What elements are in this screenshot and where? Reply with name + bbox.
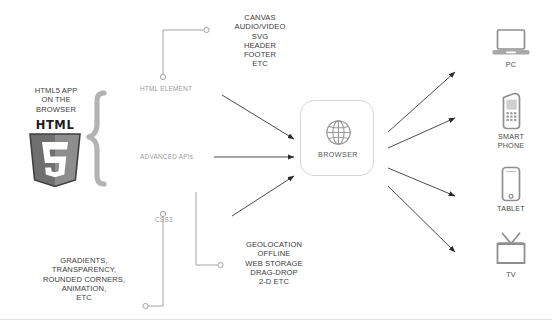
arrow-browser-to-tablet [388, 168, 455, 196]
callout-api-features: GEOLOCATION OFFLINE WEB STORAGE DRAG-DRO… [224, 240, 324, 286]
browser-node-content: BROWSER [301, 101, 375, 177]
branch-label-html-element: HTML ELEMENT [140, 85, 210, 93]
device-pc[interactable]: PC [480, 28, 542, 70]
branch-label-css3: CSS3 [155, 216, 205, 224]
html5-logo-wordmark: HTML [26, 118, 84, 132]
device-tv-label: TV [480, 271, 542, 280]
device-tv[interactable]: TV [480, 232, 542, 280]
leader-html-element [160, 27, 209, 79]
laptop-icon [491, 28, 531, 58]
device-tablet[interactable]: TABLET [480, 166, 542, 214]
arrow-css3-to-browser [232, 176, 294, 216]
tablet-icon [498, 166, 524, 202]
device-smartphone-label: SMART PHONE [480, 133, 542, 150]
tv-icon [492, 232, 530, 268]
globe-icon [325, 119, 352, 146]
arrow-browser-to-smartphone [388, 118, 455, 148]
callout-css3-features: GRADIENTS, TRANSPARENCY, ROUNDED CORNERS… [22, 256, 146, 302]
device-tablet-label: TABLET [480, 205, 542, 214]
callout-html-element-features: CANVAS AUDIO/VIDEO SVG HEADER FOOTER ETC [210, 13, 310, 69]
smartphone-icon [498, 92, 524, 130]
device-smartphone[interactable]: SMART PHONE [480, 92, 542, 150]
arrow-html-element-to-browser [222, 95, 294, 139]
arrow-browser-to-pc [388, 72, 455, 132]
footer-divider [0, 319, 552, 320]
leader-advanced-apis [196, 192, 223, 268]
branch-label-advanced-apis: ADVANCED APIs [140, 153, 214, 161]
diagram-canvas: HTML5 APP ON THE BROWSER HTML HTML ELEME… [0, 0, 552, 331]
html5-logo: HTML [26, 118, 84, 190]
device-pc-label: PC [480, 61, 542, 70]
arrow-browser-to-tv [388, 186, 455, 252]
browser-node-label: BROWSER [318, 150, 358, 159]
html5-app-heading: HTML5 APP ON THE BROWSER [20, 86, 92, 114]
browser-node[interactable]: BROWSER [300, 100, 374, 176]
leader-css3 [143, 211, 166, 308]
